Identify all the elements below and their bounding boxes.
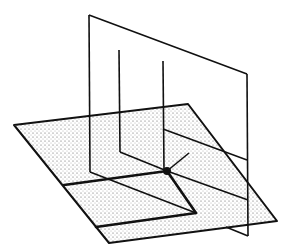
vertical-plane-top-edge — [89, 15, 247, 74]
vertical-plane-right-edge — [247, 74, 248, 236]
vertical-line-middle — [119, 50, 120, 152]
plane-diagram-svg — [0, 0, 296, 252]
vertical-plane-bottom-edge — [226, 227, 248, 236]
vertical-line-right — [163, 61, 164, 171]
diagram-figure: Perspective drawing of a vertical plane … — [0, 0, 296, 252]
center-point — [163, 167, 171, 175]
vertical-line-left — [89, 15, 90, 172]
